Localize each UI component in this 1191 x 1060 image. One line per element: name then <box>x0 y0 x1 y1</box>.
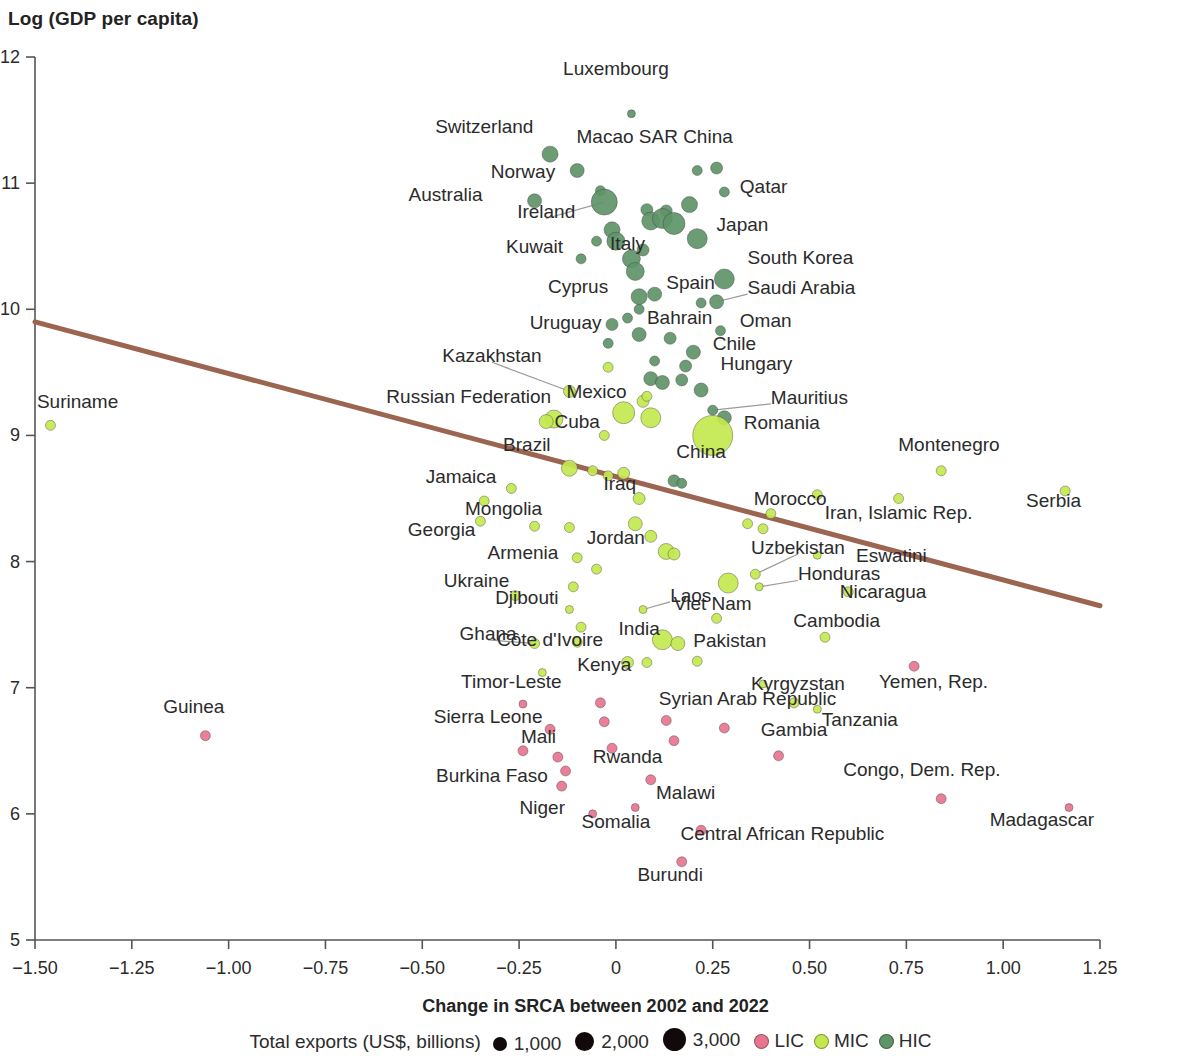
data-point[interactable] <box>646 775 656 785</box>
data-point[interactable] <box>668 548 680 560</box>
point-label: Cuba <box>554 411 600 432</box>
point-label: Bahrain <box>647 307 713 328</box>
data-point[interactable] <box>626 262 644 280</box>
data-point[interactable] <box>45 420 55 430</box>
data-point[interactable] <box>714 269 734 289</box>
data-point[interactable] <box>687 229 707 249</box>
data-point[interactable] <box>936 466 946 476</box>
x-tick-label: 0 <box>611 958 621 978</box>
data-point[interactable] <box>664 332 676 344</box>
data-point[interactable] <box>627 110 635 118</box>
data-point[interactable] <box>570 164 584 178</box>
data-point[interactable] <box>568 582 578 592</box>
data-point[interactable] <box>603 362 613 372</box>
point-label: Oman <box>740 310 792 331</box>
data-point[interactable] <box>623 313 633 323</box>
point-label: Spain <box>666 272 715 293</box>
legend-category-hic[interactable]: HIC <box>879 1030 932 1052</box>
data-point[interactable] <box>686 345 700 359</box>
data-point[interactable] <box>750 569 760 579</box>
data-point[interactable] <box>632 328 646 342</box>
data-point[interactable] <box>639 606 647 614</box>
data-point[interactable] <box>599 717 609 727</box>
data-point[interactable] <box>553 752 563 762</box>
point-label: Burundi <box>637 864 703 885</box>
data-point[interactable] <box>592 236 602 246</box>
x-tick-label: −0.25 <box>496 958 542 978</box>
data-point[interactable] <box>592 564 602 574</box>
legend-size-label: 1,000 <box>514 1033 562 1055</box>
data-point[interactable] <box>718 573 738 593</box>
data-point[interactable] <box>603 338 613 348</box>
data-point[interactable] <box>766 509 776 519</box>
point-label: Burkina Faso <box>436 765 548 786</box>
data-point[interactable] <box>565 606 573 614</box>
legend-size-dot-icon <box>493 1037 507 1051</box>
point-label: Sierra Leone <box>434 706 543 727</box>
legend-category-dot-icon <box>879 1034 894 1049</box>
data-point[interactable] <box>613 402 635 424</box>
data-point[interactable] <box>631 289 647 305</box>
data-point[interactable] <box>606 318 618 330</box>
data-point[interactable] <box>661 716 671 726</box>
data-point[interactable] <box>650 356 660 366</box>
data-point[interactable] <box>561 766 571 776</box>
data-point[interactable] <box>712 613 722 623</box>
point-label: Pakistan <box>693 630 766 651</box>
data-point[interactable] <box>719 187 729 197</box>
data-point[interactable] <box>655 375 669 389</box>
point-label: Saudi Arabia <box>748 277 856 298</box>
legend-category-mic[interactable]: MIC <box>814 1030 869 1052</box>
data-point[interactable] <box>755 583 763 591</box>
data-point[interactable] <box>634 304 644 314</box>
legend-size-label: 3,000 <box>693 1029 741 1051</box>
data-point[interactable] <box>642 657 652 667</box>
data-point[interactable] <box>936 794 946 804</box>
data-point[interactable] <box>633 493 645 505</box>
legend-category-lic[interactable]: LIC <box>754 1030 804 1052</box>
data-point[interactable] <box>542 146 558 162</box>
data-point[interactable] <box>200 731 210 741</box>
data-point[interactable] <box>692 656 702 666</box>
data-point[interactable] <box>642 391 652 401</box>
data-point[interactable] <box>708 405 718 415</box>
data-point[interactable] <box>820 632 830 642</box>
data-point[interactable] <box>711 162 723 174</box>
data-points <box>45 110 1073 867</box>
point-label: Mali <box>521 726 556 747</box>
data-point[interactable] <box>518 746 528 756</box>
y-tick-label: 5 <box>10 930 20 950</box>
data-point[interactable] <box>572 553 582 563</box>
data-point[interactable] <box>681 197 697 213</box>
data-point[interactable] <box>671 637 685 651</box>
data-point[interactable] <box>663 213 685 235</box>
data-point[interactable] <box>561 460 577 476</box>
data-point[interactable] <box>530 521 540 531</box>
data-point[interactable] <box>591 189 617 215</box>
point-label: Montenegro <box>898 434 999 455</box>
data-point[interactable] <box>645 530 657 542</box>
data-point[interactable] <box>595 698 605 708</box>
data-point[interactable] <box>539 415 553 429</box>
data-point[interactable] <box>506 483 516 493</box>
data-point[interactable] <box>774 751 784 761</box>
data-point[interactable] <box>692 166 702 176</box>
data-point[interactable] <box>680 360 692 372</box>
data-point[interactable] <box>557 781 567 791</box>
data-point[interactable] <box>576 254 586 264</box>
data-point[interactable] <box>599 430 609 440</box>
data-point[interactable] <box>694 383 708 397</box>
legend-size-title: Total exports (US$, billions) <box>249 1031 480 1053</box>
data-point[interactable] <box>677 478 687 488</box>
data-point[interactable] <box>648 287 662 301</box>
data-point[interactable] <box>669 736 679 746</box>
point-label: Côte d'Ivoire <box>497 629 603 650</box>
data-point[interactable] <box>758 524 768 534</box>
data-point[interactable] <box>743 519 753 529</box>
data-point[interactable] <box>641 408 661 428</box>
point-label: Romania <box>744 412 820 433</box>
data-point[interactable] <box>588 466 598 476</box>
data-point[interactable] <box>564 523 574 533</box>
data-point[interactable] <box>719 723 729 733</box>
data-point[interactable] <box>676 374 688 386</box>
